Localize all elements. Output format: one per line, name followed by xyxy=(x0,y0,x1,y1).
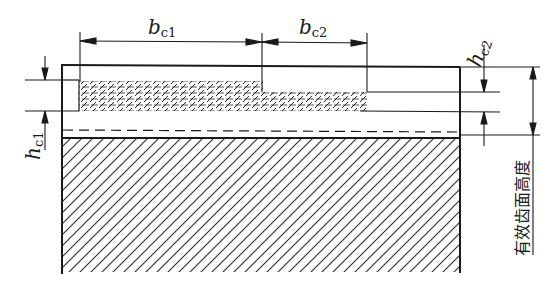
label-b-c1: bc1 xyxy=(148,15,176,40)
dashed-reference-line xyxy=(63,130,458,132)
label-h-c1: hc1 xyxy=(21,132,46,160)
dimension-b-c2 xyxy=(262,39,367,46)
contact-pattern-region xyxy=(62,80,500,112)
label-h-c2: hc2 xyxy=(462,35,495,70)
label-b-c2: bc2 xyxy=(299,15,327,40)
label-effective-tooth-height: 有效齿面高度 xyxy=(513,160,532,256)
tooth-contact-pattern-diagram: bc1 bc2 hc1 hc2 有效齿面高度 xyxy=(0,0,550,292)
tooth-body xyxy=(62,138,460,272)
